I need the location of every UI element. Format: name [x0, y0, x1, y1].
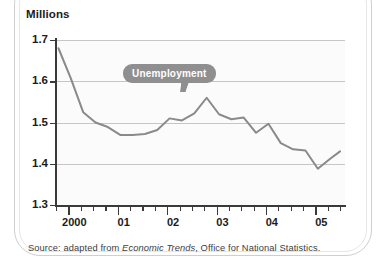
source-publication: Economic Trends [122, 243, 195, 253]
source-suffix: , Office for National Statistics. [195, 243, 320, 253]
scanned-page: Millions 1.71.61.51.41.3 20000102030405 … [0, 0, 385, 262]
series-line-unemployment [0, 0, 385, 262]
source-prefix: Source: adapted from [28, 243, 122, 253]
callout-unemployment: Unemployment [123, 64, 216, 83]
line-chart: 1.71.61.51.41.3 20000102030405 Unemploym… [0, 0, 385, 262]
source-caption: Source: adapted from Economic Trends, Of… [28, 243, 320, 253]
callout-tail-icon [180, 80, 189, 92]
